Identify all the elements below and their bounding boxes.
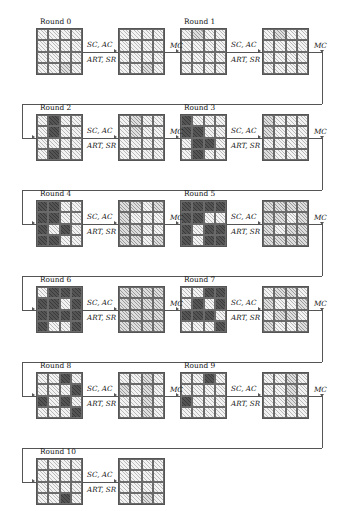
round-row-4: Round 8Round 9SC, ACART, SRMCSC, ACART, …: [0, 354, 346, 440]
op-label-mc: MC: [314, 41, 327, 50]
state-cell-r2-c4: [215, 126, 226, 137]
state-cell-r4-c4: [215, 149, 226, 160]
state-cell-r2-c1: [37, 40, 48, 51]
state-cell-r3-c1: [263, 138, 274, 149]
state-cell-r3-c2: [192, 224, 203, 235]
state-grid: [262, 200, 309, 247]
state-cell-r1-c1: [37, 459, 48, 470]
op-label-mc: MC: [170, 127, 183, 136]
state-cell-r2-c4: [153, 298, 164, 309]
wrap-arrow-down: [320, 136, 324, 139]
round-row-2: Round 4Round 5SC, ACART, SRMCSC, ACART, …: [0, 182, 346, 268]
state-cell-r1-c2: [274, 287, 285, 298]
flow-arrow: [176, 49, 179, 53]
round-row-1: Round 2Round 3SC, ACART, SRMCSC, ACART, …: [0, 96, 346, 182]
op-label-sc-ac: SC, AC: [231, 40, 256, 49]
state-cell-r2-c3: [60, 212, 71, 223]
state-cell-r3-c2: [192, 396, 203, 407]
state-cell-r4-c1: [263, 63, 274, 74]
state-cell-r3-c4: [297, 396, 308, 407]
state-cell-r4-c1: [37, 321, 48, 332]
state-cell-r2-c3: [60, 384, 71, 395]
state-cell-r3-c3: [286, 138, 297, 149]
state-cell-r1-c1: [263, 29, 274, 40]
state-grid: [180, 372, 227, 419]
state-cell-r1-c4: [215, 29, 226, 40]
flow-arrow: [114, 307, 117, 311]
state-cell-r4-c4: [71, 493, 82, 504]
state-cell-r4-c4: [297, 407, 308, 418]
state-cell-r3-c1: [119, 396, 130, 407]
state-cell-r4-c1: [37, 407, 48, 418]
op-label-mc: MC: [170, 385, 183, 394]
state-cell-r4-c2: [274, 149, 285, 160]
flow-connector: [83, 482, 118, 483]
state-cell-r2-c1: [119, 126, 130, 137]
state-cell-r4-c3: [60, 321, 71, 332]
state-cell-r1-c3: [142, 115, 153, 126]
op-label-mc: MC: [314, 213, 327, 222]
state-cell-r1-c4: [297, 29, 308, 40]
state-cell-r3-c1: [119, 482, 130, 493]
state-cell-r4-c1: [119, 149, 130, 160]
state-cell-r1-c4: [153, 115, 164, 126]
state-cell-r4-c2: [274, 321, 285, 332]
state-cell-r1-c1: [181, 115, 192, 126]
state-cell-r1-c2: [130, 287, 141, 298]
state-cell-r1-c2: [130, 373, 141, 384]
state-cell-r3-c3: [142, 482, 153, 493]
state-cell-r2-c1: [119, 470, 130, 481]
state-cell-r1-c1: [119, 287, 130, 298]
state-cell-r4-c2: [130, 407, 141, 418]
state-cell-r2-c3: [286, 126, 297, 137]
op-label-mc: MC: [314, 127, 327, 136]
state-cell-r3-c2: [274, 310, 285, 321]
round-caption: Round 0: [40, 17, 71, 26]
state-cell-r1-c4: [153, 373, 164, 384]
state-cell-r3-c3: [286, 224, 297, 235]
state-cell-r4-c2: [274, 407, 285, 418]
state-cell-r1-c1: [119, 201, 130, 212]
state-cell-r4-c4: [153, 321, 164, 332]
state-cell-r2-c1: [119, 40, 130, 51]
state-grid: [118, 114, 165, 161]
state-cell-r4-c4: [153, 407, 164, 418]
op-label-art-sr: ART, SR: [87, 485, 116, 494]
state-grid: [36, 28, 83, 75]
round-row-3: Round 6Round 7SC, ACART, SRMCSC, ACART, …: [0, 268, 346, 354]
state-grid: [118, 28, 165, 75]
state-cell-r1-c2: [130, 459, 141, 470]
state-cell-r4-c4: [215, 321, 226, 332]
state-cell-r1-c2: [274, 373, 285, 384]
state-cell-r1-c4: [153, 287, 164, 298]
state-cell-r2-c4: [297, 126, 308, 137]
state-cell-r1-c3: [204, 373, 215, 384]
state-cell-r2-c4: [297, 384, 308, 395]
state-cell-r4-c2: [48, 407, 59, 418]
flow-connector: [83, 224, 118, 225]
state-cell-r2-c4: [215, 384, 226, 395]
state-grid: [180, 28, 227, 75]
state-cell-r4-c4: [153, 149, 164, 160]
state-cell-r4-c4: [297, 149, 308, 160]
state-cell-r4-c3: [60, 149, 71, 160]
round-caption: Round 7: [184, 275, 215, 284]
state-cell-r3-c4: [153, 224, 164, 235]
state-cell-r1-c1: [263, 287, 274, 298]
state-cell-r1-c4: [215, 201, 226, 212]
state-cell-r4-c4: [71, 235, 82, 246]
state-cell-r1-c4: [71, 29, 82, 40]
state-cell-r3-c4: [71, 52, 82, 63]
state-cell-r3-c4: [71, 482, 82, 493]
state-cell-r2-c2: [274, 384, 285, 395]
round-caption: Round 5: [184, 189, 215, 198]
flow-connector: [227, 52, 262, 53]
state-cell-r2-c3: [286, 384, 297, 395]
state-cell-r1-c3: [204, 29, 215, 40]
state-cell-r1-c2: [274, 115, 285, 126]
state-cell-r2-c2: [274, 126, 285, 137]
state-cell-r4-c2: [130, 493, 141, 504]
state-cell-r4-c3: [286, 235, 297, 246]
state-cell-r2-c3: [286, 40, 297, 51]
flow-connector: [83, 310, 118, 311]
